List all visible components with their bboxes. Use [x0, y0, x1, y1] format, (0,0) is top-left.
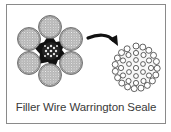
diagram-caption: Filler Wire Warrington Seale: [6, 101, 166, 113]
rope-cross-section: [18, 16, 83, 87]
strand-detail: [112, 43, 160, 92]
arrow-icon: [88, 35, 118, 46]
